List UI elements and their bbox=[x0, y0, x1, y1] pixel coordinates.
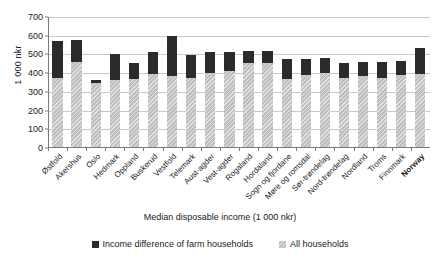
bar-slot bbox=[48, 17, 67, 148]
bar-slot bbox=[124, 17, 143, 148]
bar-segment-all-households bbox=[205, 73, 215, 148]
y-axis-tick-label: 0 bbox=[38, 144, 43, 153]
stacked-bar[interactable] bbox=[301, 59, 311, 148]
stacked-bar[interactable] bbox=[358, 62, 368, 148]
bar-segment-all-households bbox=[396, 75, 406, 148]
x-label-slot: Finnmark bbox=[392, 150, 411, 210]
bar-series-group bbox=[48, 17, 430, 148]
bar-slot bbox=[67, 17, 86, 148]
bar-segment-income-difference bbox=[167, 36, 177, 77]
x-label-slot: Buskerud bbox=[143, 150, 162, 210]
y-axis-tick-label: 600 bbox=[28, 31, 43, 40]
bar-segment-all-households bbox=[91, 83, 101, 149]
stacked-bar[interactable] bbox=[167, 36, 177, 148]
y-axis-tick-label: 100 bbox=[28, 125, 43, 134]
bar-segment-income-difference bbox=[396, 61, 406, 75]
bar-slot bbox=[201, 17, 220, 148]
bar-segment-income-difference bbox=[205, 52, 215, 73]
bar-segment-all-households bbox=[52, 78, 62, 148]
bar-slot bbox=[220, 17, 239, 148]
stacked-bar[interactable] bbox=[186, 55, 196, 148]
bar-segment-all-households bbox=[377, 78, 387, 148]
stacked-bar[interactable] bbox=[282, 59, 292, 148]
bar-segment-all-households bbox=[110, 80, 120, 148]
legend-label: Income difference of farm households bbox=[103, 239, 253, 249]
bar-segment-income-difference bbox=[262, 51, 272, 64]
x-axis-line bbox=[48, 147, 430, 148]
stacked-bar[interactable] bbox=[129, 63, 139, 148]
stacked-bar[interactable] bbox=[52, 41, 62, 148]
x-axis-title: Median disposable income (1 000 nkr) bbox=[0, 212, 440, 222]
bar-segment-all-households bbox=[186, 78, 196, 148]
stacked-bar[interactable] bbox=[91, 80, 101, 148]
bar-segment-income-difference bbox=[71, 40, 81, 62]
stacked-bar[interactable] bbox=[415, 48, 425, 148]
bar-segment-income-difference bbox=[110, 54, 120, 80]
bar-slot bbox=[258, 17, 277, 148]
bar-segment-all-households bbox=[224, 71, 234, 148]
stacked-bar[interactable] bbox=[148, 52, 158, 148]
plot-area: 7006005004003002001000 bbox=[48, 17, 430, 148]
stacked-bar[interactable] bbox=[243, 51, 253, 148]
y-axis-tick-label: 300 bbox=[28, 87, 43, 96]
bar-segment-income-difference bbox=[415, 48, 425, 73]
bar-segment-income-difference bbox=[148, 52, 158, 74]
stacked-bar[interactable] bbox=[205, 52, 215, 148]
x-label-slot: Nordland bbox=[354, 150, 373, 210]
bar-segment-all-households bbox=[243, 63, 253, 148]
bar-slot bbox=[334, 17, 353, 148]
x-label-slot: Hedmark bbox=[105, 150, 124, 210]
bar-slot bbox=[411, 17, 430, 148]
bar-segment-all-households bbox=[320, 73, 330, 148]
stacked-bar[interactable] bbox=[71, 40, 81, 148]
stacked-bar[interactable] bbox=[396, 61, 406, 148]
bar-slot bbox=[182, 17, 201, 148]
bar-segment-all-households bbox=[415, 74, 425, 148]
bar-segment-income-difference bbox=[339, 63, 349, 78]
stacked-bar[interactable] bbox=[224, 52, 234, 148]
bar-segment-all-households bbox=[282, 79, 292, 148]
bar-slot bbox=[239, 17, 258, 148]
legend-label: All households bbox=[290, 239, 349, 249]
stacked-bar[interactable] bbox=[320, 58, 330, 148]
stacked-bar[interactable] bbox=[262, 51, 272, 148]
bar-segment-income-difference bbox=[282, 59, 292, 79]
stacked-bar[interactable] bbox=[377, 62, 387, 148]
y-axis-tick-label: 700 bbox=[28, 13, 43, 22]
bar-slot bbox=[354, 17, 373, 148]
chart-container: 1 000 nkr 7006005004003002001000 Østfold… bbox=[0, 0, 440, 270]
bar-segment-income-difference bbox=[52, 41, 62, 78]
bar-segment-income-difference bbox=[224, 52, 234, 71]
bar-segment-income-difference bbox=[186, 55, 196, 78]
stacked-bar[interactable] bbox=[339, 63, 349, 148]
bar-segment-income-difference bbox=[320, 58, 330, 74]
bar-segment-all-households bbox=[339, 78, 349, 148]
bar-segment-all-households bbox=[148, 74, 158, 148]
x-label-slot: Norway bbox=[411, 150, 430, 210]
bar-segment-all-households bbox=[301, 75, 311, 148]
bar-slot bbox=[163, 17, 182, 148]
chart-legend: Income difference of farm householdsAll … bbox=[0, 239, 440, 249]
bar-segment-income-difference bbox=[377, 62, 387, 77]
bar-segment-income-difference bbox=[129, 63, 139, 79]
stacked-bar[interactable] bbox=[110, 54, 120, 148]
bar-slot bbox=[315, 17, 334, 148]
bar-slot bbox=[143, 17, 162, 148]
bar-slot bbox=[105, 17, 124, 148]
x-label-slot: Akershus bbox=[67, 150, 86, 210]
bar-segment-income-difference bbox=[301, 59, 311, 75]
y-axis-line bbox=[48, 17, 49, 148]
bar-segment-all-households bbox=[262, 63, 272, 148]
bar-slot bbox=[392, 17, 411, 148]
bar-slot bbox=[277, 17, 296, 148]
bar-slot bbox=[373, 17, 392, 148]
legend-item[interactable]: Income difference of farm households bbox=[92, 239, 253, 249]
bar-segment-all-households bbox=[358, 76, 368, 148]
x-label-slot: Nord-trøndelag bbox=[334, 150, 353, 210]
bar-slot bbox=[296, 17, 315, 148]
y-axis-title: 1 000 nkr bbox=[13, 25, 23, 105]
x-label-slot: Oslo bbox=[86, 150, 105, 210]
bar-slot bbox=[86, 17, 105, 148]
bar-segment-all-households bbox=[129, 79, 139, 148]
legend-item[interactable]: All households bbox=[279, 239, 349, 249]
